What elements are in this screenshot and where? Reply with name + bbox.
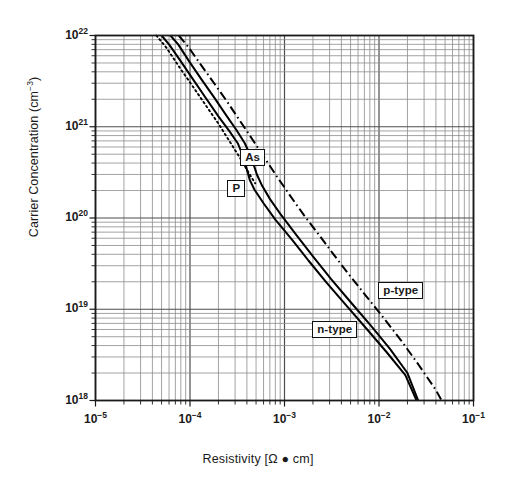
figure-root: Carrier Concentration (cm−3) Resistivity…	[0, 0, 516, 486]
annotation-p: P	[227, 180, 245, 197]
x-tick-label: 10−2	[349, 412, 409, 426]
annotation-as: As	[240, 149, 265, 166]
x-tick-label: 10−3	[255, 412, 315, 426]
x-tick-label: 10−4	[160, 412, 220, 426]
x-tick-label: 10−5	[66, 412, 126, 426]
x-tick-labels: 10−510−410−310−210−1	[0, 412, 516, 436]
annotation-n-type: n-type	[312, 321, 357, 338]
axis-ticks	[90, 36, 474, 407]
x-tick-label: 10−1	[444, 412, 504, 426]
y-tick-label: 1019	[32, 301, 88, 315]
y-tick-label: 1020	[32, 210, 88, 224]
y-tick-label: 1018	[32, 393, 88, 407]
y-tick-label: 1022	[32, 28, 88, 42]
y-tick-label: 1021	[32, 119, 88, 133]
annotation-p-type: p-type	[378, 282, 423, 299]
